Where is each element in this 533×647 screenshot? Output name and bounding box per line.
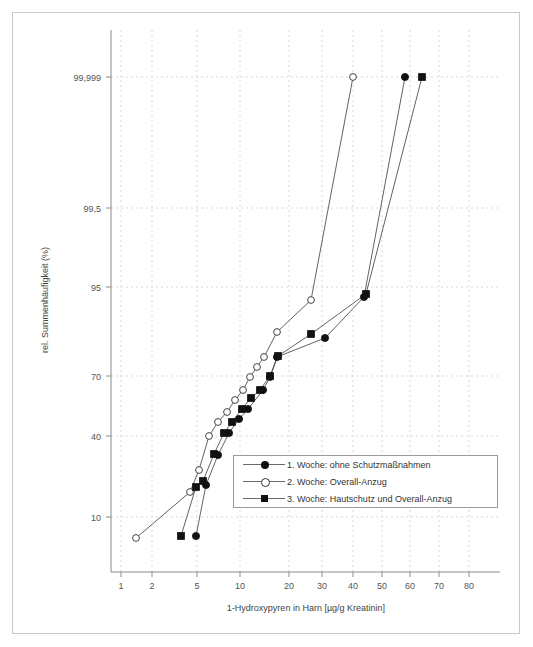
legend-label-3: 3. Woche: Hautschutz und Overall-Anzug — [287, 494, 452, 504]
data-point-filled-square — [200, 478, 207, 485]
y-tick-label: 99,999 — [73, 73, 101, 83]
data-point-filled-square — [308, 331, 315, 338]
data-point-filled-square — [239, 406, 246, 413]
y-tick-label: 10 — [91, 513, 101, 523]
data-point-filled-square — [419, 74, 426, 81]
data-point-filled-square — [248, 395, 255, 402]
chart-canvas: 1251020304050607080 99,99999,595704010 1… — [0, 0, 533, 647]
legend-item-2: 2. Woche: Overall-Anzug — [241, 473, 497, 490]
data-point-open-circle — [133, 535, 140, 542]
data-point-filled-square — [229, 419, 236, 426]
y-tick-label: 40 — [91, 432, 101, 442]
y-gridlines — [111, 77, 500, 517]
data-point-open-circle — [206, 433, 213, 440]
legend-item-1: 1. Woche: ohne Schutzmaßnahmen — [241, 456, 497, 473]
x-tick-label: 1 — [118, 581, 123, 591]
x-tick-label: 2 — [149, 581, 154, 591]
chart-legend: 1. Woche: ohne Schutzmaßnahmen 2. Woche:… — [233, 455, 498, 508]
data-point-filled-square — [267, 373, 274, 380]
chart-svg: 1251020304050607080 99,99999,595704010 1… — [0, 0, 533, 647]
x-tick-label: 50 — [377, 581, 387, 591]
data-point-open-circle — [261, 354, 268, 361]
x-tick-label: 5 — [194, 581, 199, 591]
data-point-filled-square — [193, 484, 200, 491]
x-tick-label: 40 — [348, 581, 358, 591]
data-point-filled-circle — [401, 73, 408, 80]
data-point-open-circle — [308, 297, 315, 304]
open-circle-icon — [241, 474, 287, 490]
data-point-filled-square — [178, 533, 185, 540]
x-tick-label: 10 — [235, 581, 245, 591]
data-point-open-circle — [350, 74, 357, 81]
y-axis-ticks: 99,99999,595704010 — [73, 73, 111, 523]
legend-item-3: 3. Woche: Hautschutz und Overall-Anzug — [241, 490, 497, 507]
x-axis-ticks: 1251020304050607080 — [118, 572, 474, 591]
data-point-filled-square — [211, 451, 218, 458]
y-tick-label: 95 — [91, 283, 101, 293]
data-point-open-circle — [196, 467, 203, 474]
data-point-filled-square — [363, 291, 370, 298]
y-tick-label: 70 — [91, 372, 101, 382]
data-point-filled-square — [275, 353, 282, 360]
y-tick-label: 99,5 — [83, 204, 101, 214]
data-point-open-circle — [232, 397, 239, 404]
data-point-filled-circle — [192, 532, 199, 539]
data-point-filled-circle — [235, 415, 242, 422]
x-axis-title: 1-Hydroxypyren in Harn [µg/g Kreatinin] — [227, 603, 385, 613]
data-point-open-circle — [224, 409, 231, 416]
x-tick-label: 20 — [284, 581, 294, 591]
data-point-open-circle — [215, 419, 222, 426]
filled-circle-icon — [241, 457, 287, 473]
x-tick-label: 70 — [434, 581, 444, 591]
data-point-open-circle — [254, 364, 261, 371]
x-tick-label: 30 — [317, 581, 327, 591]
data-point-open-circle — [240, 387, 247, 394]
legend-label-2: 2. Woche: Overall-Anzug — [287, 477, 387, 487]
x-tick-label: 80 — [464, 581, 474, 591]
data-point-open-circle — [247, 374, 254, 381]
x-tick-label: 60 — [405, 581, 415, 591]
data-point-filled-square — [221, 430, 228, 437]
data-point-filled-circle — [321, 334, 328, 341]
data-point-open-circle — [274, 329, 281, 336]
legend-label-1: 1. Woche: ohne Schutzmaßnahmen — [287, 460, 430, 470]
data-point-filled-square — [257, 387, 264, 394]
y-axis-title: rel. Summenhäufigkeit (%) — [40, 247, 50, 353]
filled-square-icon — [241, 491, 287, 507]
